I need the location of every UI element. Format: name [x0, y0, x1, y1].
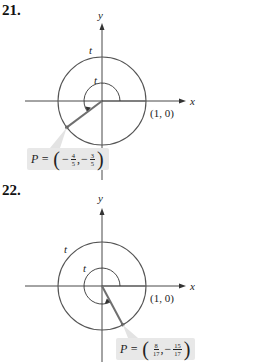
point-P-label: P = ( − 45 , − 35 )	[27, 148, 109, 170]
x-fraction: 817	[153, 342, 160, 357]
point-label: (1, 0)	[150, 292, 174, 305]
callout-pointer	[50, 127, 67, 148]
x-axis-arrow-icon	[179, 99, 186, 104]
point-P	[65, 126, 69, 130]
inner-arc-label: t	[83, 262, 87, 274]
y-axis-arrow-icon	[100, 208, 105, 215]
y-fraction: 1517	[173, 342, 182, 357]
y-axis-label: y	[97, 9, 103, 21]
x-axis-label: x	[189, 95, 195, 107]
y-axis-arrow-icon	[100, 23, 105, 30]
y-fraction: 35	[90, 152, 95, 167]
point-P-label: P = ( 817 , − 1517 )	[116, 338, 195, 360]
radius-line	[102, 286, 123, 325]
point-label: (1, 0)	[150, 107, 174, 120]
x-axis-arrow-icon	[179, 284, 186, 289]
x-fraction: 45	[71, 152, 76, 167]
inner-arc-label: t	[94, 74, 98, 86]
x-axis-label: x	[189, 280, 195, 292]
problem-21: 21. t t y x (1, 0) P = ( − 45 , − 35 )	[0, 0, 255, 180]
unit-circle-diagram: t t y x (1, 0)	[0, 180, 255, 362]
outer-arc-label: t	[89, 44, 93, 56]
outer-arc-label: t	[64, 243, 68, 255]
y-axis-label: y	[97, 192, 103, 204]
problem-22: 22. t t y x (1, 0) P = ( 817 , − 1517 )	[0, 180, 255, 362]
callout-pointer	[123, 325, 138, 338]
